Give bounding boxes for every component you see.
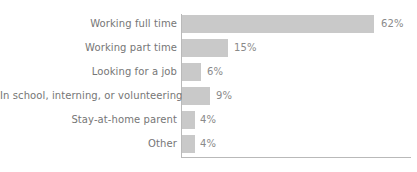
category-label-stay-at-home-parent: Stay-at-home parent [0, 110, 177, 129]
bar-rows: Working full time 62% Working part time … [0, 14, 417, 158]
bar-stay-at-home-parent [182, 111, 195, 129]
bar-in-school-interning-or-volunteering [182, 87, 210, 105]
category-label-in-school-interning-or-volunteering: In school, interning, or volunteering [0, 86, 177, 105]
category-label-working-part-time: Working part time [0, 38, 177, 57]
value-label-in-school-interning-or-volunteering: 9% [216, 86, 232, 105]
value-label-looking-for-a-job: 6% [207, 62, 223, 81]
value-label-other: 4% [200, 134, 216, 153]
table-row: Working full time 62% [0, 14, 417, 38]
table-row: In school, interning, or volunteering 9% [0, 86, 417, 110]
table-row: Other 4% [0, 134, 417, 158]
category-label-looking-for-a-job: Looking for a job [0, 62, 177, 81]
value-label-working-part-time: 15% [234, 38, 257, 57]
bar-chart: Working full time 62% Working part time … [0, 0, 417, 172]
table-row: Stay-at-home parent 4% [0, 110, 417, 134]
category-label-working-full-time: Working full time [0, 14, 177, 33]
value-label-working-full-time: 62% [381, 14, 404, 33]
bar-working-full-time [182, 15, 374, 33]
value-label-stay-at-home-parent: 4% [200, 110, 216, 129]
bar-other [182, 135, 195, 153]
table-row: Working part time 15% [0, 38, 417, 62]
category-label-other: Other [0, 134, 177, 153]
bar-looking-for-a-job [182, 63, 201, 81]
table-row: Looking for a job 6% [0, 62, 417, 86]
bar-working-part-time [182, 39, 228, 57]
